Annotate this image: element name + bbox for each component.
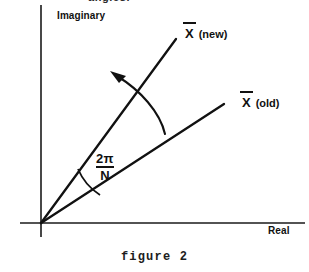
angle-denominator: N bbox=[96, 169, 114, 182]
vector-x-old-label: X (old) bbox=[241, 95, 280, 110]
figure-page: angles. Imaginary Real X (new) X (old) 2… bbox=[0, 0, 309, 272]
real-axis-label: Real bbox=[268, 225, 290, 236]
x-new-suffix: (new) bbox=[199, 28, 228, 40]
vector-x-new-label: X (new) bbox=[184, 26, 227, 41]
imaginary-axis-label: Imaginary bbox=[57, 10, 105, 21]
figure-caption: figure 2 bbox=[0, 250, 309, 264]
x-bar-symbol-new: X bbox=[184, 26, 195, 41]
vector-x-old bbox=[41, 104, 224, 223]
vector-x-new bbox=[41, 39, 176, 223]
angle-numerator: 2π bbox=[96, 152, 114, 165]
complex-plane-diagram bbox=[0, 0, 309, 272]
x-bar-symbol-old: X bbox=[241, 95, 252, 110]
x-old-suffix: (old) bbox=[256, 97, 280, 109]
rotation-arrow-curve bbox=[117, 76, 165, 134]
angle-label: 2π N bbox=[96, 152, 114, 182]
